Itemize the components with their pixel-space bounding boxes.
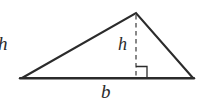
triangle-diagram-figure: h h b bbox=[0, 0, 203, 111]
right-angle-marker-icon bbox=[136, 67, 147, 78]
altitude-label-h: h bbox=[118, 35, 127, 53]
base-label-b: b bbox=[101, 82, 111, 101]
triangle-slanted-sides bbox=[22, 13, 193, 78]
side-length-label-h: h bbox=[0, 34, 8, 53]
